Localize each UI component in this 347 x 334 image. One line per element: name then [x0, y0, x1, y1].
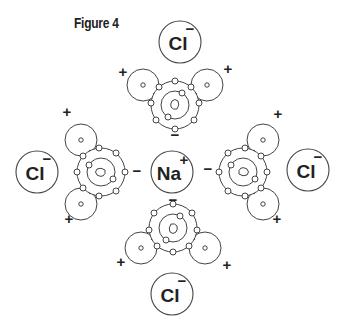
- water-molecule-left: [65, 124, 128, 220]
- svg-text:−: −: [43, 150, 52, 167]
- water-molecule-right: [216, 124, 279, 220]
- svg-text:+: +: [223, 256, 232, 273]
- svg-text:−: −: [186, 20, 195, 37]
- svg-text:−: −: [314, 148, 323, 165]
- chloride-ion-top: Cl −: [159, 20, 201, 63]
- water-molecule-bottom: [125, 201, 221, 264]
- svg-text:−: −: [204, 160, 213, 177]
- svg-text:+: +: [119, 63, 128, 80]
- water-molecule-top: [127, 69, 223, 132]
- svg-text:+: +: [274, 105, 283, 122]
- sodium-charge: +: [180, 151, 189, 168]
- chloride-ion-left: Cl −: [16, 150, 58, 193]
- svg-text:−: −: [169, 191, 178, 208]
- hydration-diagram: Na + Cl − Cl − Cl − Cl − + + −: [0, 0, 347, 334]
- svg-text:−: −: [178, 272, 187, 289]
- chloride-ion-right: Cl −: [287, 148, 329, 191]
- svg-text:+: +: [273, 210, 282, 227]
- svg-text:+: +: [117, 253, 126, 270]
- figure-title: Figure 4: [74, 14, 119, 31]
- svg-text:+: +: [65, 210, 74, 227]
- figure-4-diagram: Figure 4: [0, 0, 347, 334]
- svg-text:+: +: [63, 103, 72, 120]
- svg-text:−: −: [133, 162, 142, 179]
- sodium-symbol: Na: [157, 163, 182, 184]
- sodium-ion: Na +: [151, 151, 193, 193]
- svg-text:−: −: [171, 126, 180, 143]
- chloride-ion-bottom: Cl −: [151, 272, 193, 315]
- svg-text:+: +: [224, 60, 233, 77]
